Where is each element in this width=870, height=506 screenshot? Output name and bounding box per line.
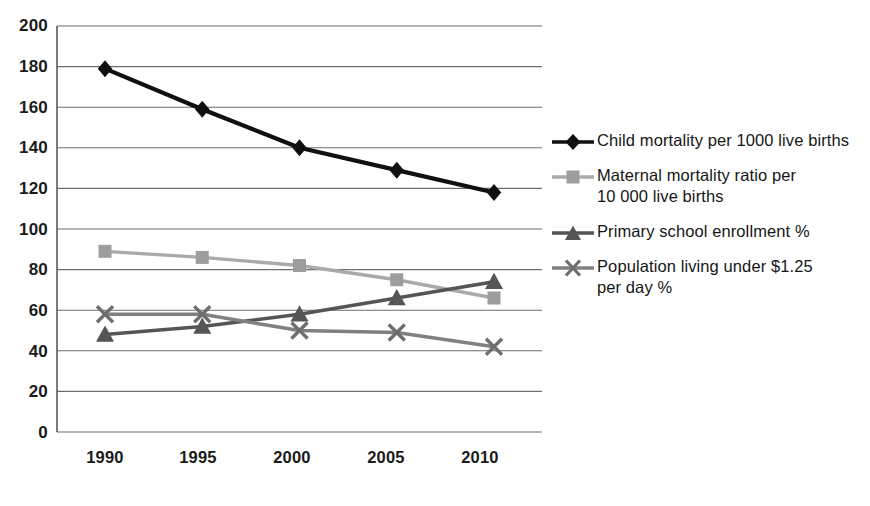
chart-canvas [0, 0, 580, 506]
data-series [99, 245, 501, 305]
square-marker-icon [551, 166, 595, 188]
legend-label: Maternal mortality ratio per 10 000 live… [597, 165, 796, 207]
data-point [196, 251, 209, 264]
legend-label: Child mortality per 1000 live births [597, 130, 849, 151]
data-point [292, 139, 306, 156]
line-chart: 200 180 160 140 120 100 80 60 40 20 0 19… [0, 0, 870, 506]
data-point [488, 292, 501, 305]
data-point [485, 273, 503, 289]
legend-item-primary-school[interactable]: Primary school enrollment % [551, 221, 810, 244]
data-point [293, 259, 306, 272]
diamond-marker-icon [551, 131, 595, 153]
legend-label: Primary school enrollment % [597, 221, 810, 242]
data-point [390, 162, 404, 179]
data-point [195, 101, 209, 118]
legend-item-child-mortality[interactable]: Child mortality per 1000 live births [551, 130, 849, 153]
gridlines [57, 26, 542, 432]
legend-item-maternal-mortality[interactable]: Maternal mortality ratio per 10 000 live… [551, 165, 796, 207]
triangle-marker-icon [551, 222, 595, 244]
data-point [487, 184, 501, 201]
data-point [390, 273, 403, 286]
data-series [98, 60, 501, 201]
x-marker-icon [551, 257, 595, 279]
data-point [98, 60, 112, 77]
legend-item-population-poverty[interactable]: Population living under $1.25 per day % [551, 256, 813, 298]
plot-area: 200 180 160 140 120 100 80 60 40 20 0 19… [0, 0, 580, 506]
data-point [99, 245, 112, 258]
legend-label: Population living under $1.25 per day % [597, 256, 813, 298]
